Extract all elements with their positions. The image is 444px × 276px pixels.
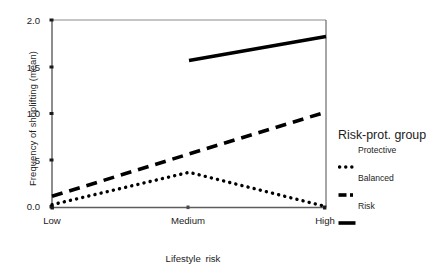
series-line-risk: [189, 37, 326, 61]
axis-frame: [52, 20, 326, 208]
dotted-line-icon: [338, 156, 356, 162]
legend-title: Risk-prot. group: [338, 128, 426, 142]
series-line-protective: [52, 172, 326, 206]
dashed-line-icon: [338, 184, 356, 190]
legend-entry-protective[interactable]: Protective: [338, 145, 444, 167]
legend-label-protective: Protective: [358, 145, 396, 155]
solid-line-icon: [338, 212, 356, 218]
legend-entry-balanced[interactable]: Balanced: [338, 173, 444, 195]
series-line-balanced: [52, 112, 326, 196]
legend-label-balanced: Balanced: [358, 173, 394, 183]
legend-entry-risk[interactable]: Risk: [338, 201, 444, 223]
figure-container: Frequency of shoplifting (mean) 2.0 1.5 …: [0, 0, 444, 276]
legend-label-risk: Risk: [358, 201, 375, 211]
